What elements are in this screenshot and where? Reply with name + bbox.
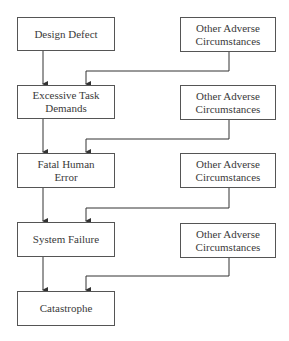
node-label: System Failure	[33, 233, 99, 246]
arrow-adverse3-to-system	[86, 188, 229, 221]
node-label: Design Defect	[34, 28, 97, 41]
node-catastrophe: Catastrophe	[17, 291, 115, 326]
node-label: Excessive Task Demands	[32, 89, 99, 115]
node-other-adverse-circumstances-3: Other Adverse Circumstances	[180, 153, 276, 188]
node-excessive-task-demands: Excessive Task Demands	[17, 85, 115, 119]
node-label: Other Adverse Circumstances	[196, 90, 261, 116]
node-other-adverse-circumstances-4: Other Adverse Circumstances	[180, 223, 276, 258]
node-label: Other Adverse Circumstances	[196, 228, 261, 254]
arrow-adverse4-to-catastrophe	[86, 257, 229, 290]
node-label: Catastrophe	[40, 302, 93, 315]
node-system-failure: System Failure	[17, 222, 115, 257]
arrow-adverse1-to-excessive	[86, 52, 229, 84]
node-design-defect: Design Defect	[17, 17, 115, 51]
arrow-adverse2-to-fatal	[86, 120, 229, 152]
node-fatal-human-error: Fatal Human Error	[17, 153, 115, 188]
node-label: Fatal Human Error	[37, 158, 94, 184]
node-other-adverse-circumstances-1: Other Adverse Circumstances	[180, 17, 276, 52]
node-label: Other Adverse Circumstances	[196, 22, 261, 48]
node-other-adverse-circumstances-2: Other Adverse Circumstances	[180, 85, 276, 120]
node-label: Other Adverse Circumstances	[196, 158, 261, 184]
